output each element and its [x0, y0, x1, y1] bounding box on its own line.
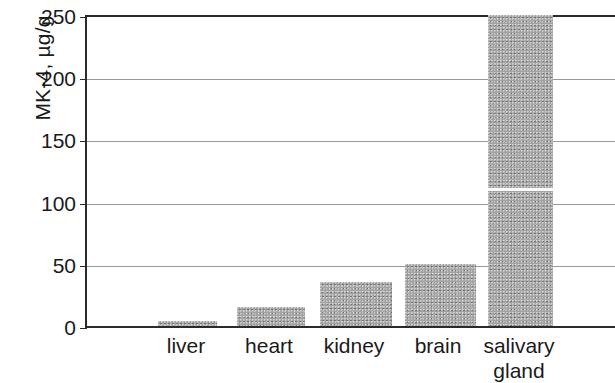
y-tick-label-100: 100 [41, 192, 76, 216]
y-tick-150 [80, 141, 87, 142]
y-tick-200 [80, 79, 87, 80]
bar-brain [405, 264, 476, 326]
x-label-liver: liver [146, 333, 226, 358]
y-tick-label-0: 0 [64, 316, 76, 340]
y-tick-label-200: 200 [41, 67, 76, 91]
bar-series [87, 17, 615, 326]
bar-heart [237, 307, 305, 326]
y-tick-0 [80, 328, 87, 329]
y-tick-label-250: 250 [41, 5, 76, 29]
bar-salivary-gland [488, 15, 553, 326]
x-label-salivary-gland: salivary gland [474, 333, 564, 383]
x-label-heart: heart [229, 333, 309, 358]
y-tick-label-150: 150 [41, 129, 76, 153]
bar-kidney [320, 282, 392, 326]
x-axis-labels: liver heart kidney brain salivary gland [85, 331, 615, 380]
bar-liver [158, 321, 217, 326]
plot-area: 250 200 150 100 50 0 [85, 15, 615, 328]
y-tick-250 [80, 17, 87, 18]
bar-break-line [488, 188, 553, 191]
x-label-kidney: kidney [309, 333, 399, 358]
y-tick-label-50: 50 [53, 254, 76, 278]
x-label-brain: brain [398, 333, 478, 358]
y-tick-100 [80, 204, 87, 205]
y-tick-50 [80, 266, 87, 267]
